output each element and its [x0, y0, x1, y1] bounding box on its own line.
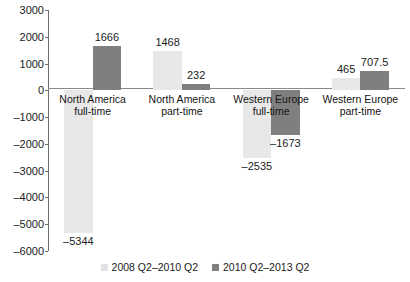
- legend-item[interactable]: 2010 Q2–2013 Q2: [212, 262, 309, 273]
- bar-value-label: –2535: [234, 161, 280, 172]
- y-axis-tick-label: 2000: [0, 32, 44, 43]
- bar-value-label: –5344: [55, 236, 101, 247]
- y-axis-tick-label: 1000: [0, 59, 44, 70]
- category-label-line: Western Europe: [221, 93, 322, 105]
- legend-label: 2008 Q2–2010 Q2: [112, 262, 198, 273]
- category-label-line: full-time: [221, 105, 322, 117]
- y-axis-tick-label: –2000: [0, 139, 44, 150]
- y-axis-tick-mark: [45, 251, 48, 252]
- category-label-line: part-time: [310, 105, 410, 117]
- y-axis-tick-label: –6000: [0, 246, 44, 257]
- bar: [93, 46, 122, 91]
- category-label-line: Western Europe: [310, 93, 410, 105]
- plot-area: –53441666North Americafull-time1468232No…: [48, 10, 405, 251]
- bar-value-label: 707.5: [352, 57, 398, 68]
- category-label: Western Europepart-time: [310, 93, 410, 117]
- chart-legend: 2008 Q2–2010 Q22010 Q2–2013 Q2: [0, 262, 410, 273]
- y-axis-tick-label: –3000: [0, 166, 44, 177]
- bar: [182, 84, 211, 90]
- bar-value-label: –1673: [262, 138, 308, 149]
- category-label: Western Europefull-time: [221, 93, 322, 117]
- y-axis-tick-label: 0: [0, 85, 44, 96]
- y-axis-tick-label: –5000: [0, 219, 44, 230]
- legend-swatch-icon: [101, 264, 108, 271]
- bar: [360, 71, 389, 90]
- bar-value-label: 232: [173, 70, 219, 81]
- category-label-line: North America: [131, 93, 232, 105]
- legend-item[interactable]: 2008 Q2–2010 Q2: [101, 262, 198, 273]
- category-label-line: full-time: [42, 105, 143, 117]
- legend-label: 2010 Q2–2013 Q2: [223, 262, 309, 273]
- category-label-line: North America: [42, 93, 143, 105]
- bar-value-label: 1468: [145, 37, 191, 48]
- category-label: North Americapart-time: [131, 93, 232, 117]
- category-label-line: part-time: [131, 105, 232, 117]
- bar-chart: 3000200010000–1000–2000–3000–4000–5000–6…: [0, 0, 410, 282]
- bar: [332, 78, 361, 90]
- y-axis-tick-label: –4000: [0, 192, 44, 203]
- y-axis-tick-label: 3000: [0, 5, 44, 16]
- category-label: North Americafull-time: [42, 93, 143, 117]
- bar-value-label: 1666: [84, 32, 130, 43]
- y-axis-tick-label: –1000: [0, 112, 44, 123]
- legend-swatch-icon: [212, 264, 219, 271]
